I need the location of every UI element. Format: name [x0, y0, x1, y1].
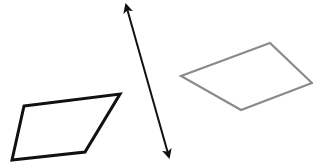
double-arrow-line [126, 5, 169, 157]
black-parallelogram [12, 94, 120, 160]
diagram-canvas [0, 0, 313, 162]
gray-parallelogram [181, 43, 312, 110]
